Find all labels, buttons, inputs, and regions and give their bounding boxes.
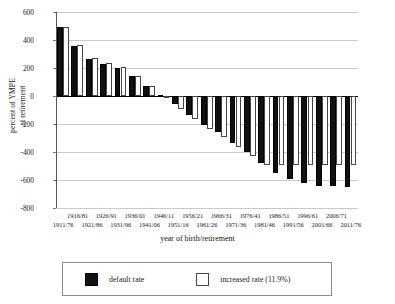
bar-group <box>128 12 142 208</box>
x-axis-tick-labels: 1911/761916/811921/861926/911931/961936/… <box>56 212 358 234</box>
bar-group <box>229 12 243 208</box>
bar-increased-rate <box>279 96 285 165</box>
bar-increased-rate <box>322 96 328 165</box>
y-tick-label: -600 <box>0 176 34 185</box>
bar-group <box>344 12 358 208</box>
bar-default-rate <box>172 96 178 104</box>
legend-label-increased-rate: increased rate (11.9%) <box>220 275 290 284</box>
legend-label-default-rate: default rate <box>109 275 144 284</box>
bar-default-rate <box>215 96 221 132</box>
y-tick-mark <box>53 68 56 69</box>
y-tick-mark <box>53 12 56 13</box>
bar-group <box>272 12 286 208</box>
y-tick-mark <box>53 208 56 209</box>
x-tick-label: 1936/01 <box>125 212 146 219</box>
bar-group <box>114 12 128 208</box>
y-tick-label: -200 <box>0 120 34 129</box>
y-tick-label: -400 <box>0 148 34 157</box>
bar-default-rate <box>345 96 351 187</box>
bar-default-rate <box>316 96 322 186</box>
bar-default-rate <box>201 96 207 125</box>
x-tick-label: 1996/61 <box>297 212 318 219</box>
chart-legend: default rate increased rate (11.9%) <box>62 262 332 296</box>
x-tick-label: 2001/66 <box>312 221 333 228</box>
bar-default-rate <box>244 96 250 152</box>
bar-default-rate <box>143 86 149 96</box>
bar-increased-rate <box>149 86 155 97</box>
y-tick-label: 400 <box>0 36 34 45</box>
bar-default-rate <box>129 76 135 96</box>
y-tick-mark <box>53 124 56 125</box>
bar-default-rate <box>287 96 293 179</box>
y-tick-label: -800 <box>0 204 34 213</box>
x-tick-label: 1926/91 <box>96 212 117 219</box>
legend-item-increased-rate: increased rate (11.9%) <box>196 273 290 286</box>
bar-default-rate <box>71 46 77 96</box>
bar-increased-rate <box>92 58 98 96</box>
bar-default-rate <box>230 96 236 143</box>
bar-group <box>200 12 214 208</box>
plot-canvas: 6004002000-200-400-600-800 <box>56 12 358 208</box>
bar-group <box>243 12 257 208</box>
x-tick-label: 2006/71 <box>326 212 347 219</box>
bar-group <box>286 12 300 208</box>
bar-group <box>315 12 329 208</box>
x-tick-label: 1931/96 <box>110 221 131 228</box>
bar-increased-rate <box>250 96 256 156</box>
legend-swatch-increased-rate <box>196 273 209 286</box>
bar-group <box>185 12 199 208</box>
bar-increased-rate <box>264 96 270 165</box>
bar-increased-rate <box>236 96 242 147</box>
bar-increased-rate <box>77 45 83 96</box>
x-tick-label: 1941/06 <box>139 221 160 228</box>
legend-item-default-rate: default rate <box>85 273 144 286</box>
bar-group <box>142 12 156 208</box>
bar-increased-rate <box>293 96 299 165</box>
chart-figure: percent of YMPE at retirement 6004002000… <box>0 0 395 304</box>
x-tick-label: 1951/16 <box>168 221 189 228</box>
legend-swatch-default-rate <box>85 273 98 286</box>
x-tick-label: 1971/36 <box>225 221 246 228</box>
bar-group <box>214 12 228 208</box>
bar-group <box>56 12 70 208</box>
bar-increased-rate <box>192 96 198 119</box>
bar-increased-rate <box>221 96 227 137</box>
x-tick-label: 1991/56 <box>283 221 304 228</box>
gridline <box>56 208 358 209</box>
bar-group <box>157 12 171 208</box>
bar-group <box>171 12 185 208</box>
x-tick-label: 1986/51 <box>268 212 289 219</box>
bar-increased-rate <box>336 96 342 165</box>
x-axis-label: year of birth/retirement <box>0 234 395 243</box>
bar-series-container <box>56 12 358 208</box>
x-tick-label: 1961/26 <box>197 221 218 228</box>
bar-increased-rate <box>207 96 213 129</box>
y-tick-mark <box>53 96 56 97</box>
x-tick-label: 1916/81 <box>67 212 88 219</box>
y-tick-mark <box>53 40 56 41</box>
bar-increased-rate <box>135 76 141 96</box>
bar-default-rate <box>273 96 279 173</box>
bar-default-rate <box>86 59 92 96</box>
bar-group <box>70 12 84 208</box>
bar-group <box>329 12 343 208</box>
y-tick-mark <box>53 180 56 181</box>
bar-increased-rate <box>178 96 184 109</box>
plot-area: 6004002000-200-400-600-800 <box>36 8 358 208</box>
x-tick-label: 1956/21 <box>182 212 203 219</box>
y-tick-label: 0 <box>0 92 34 101</box>
x-tick-label: 1976/41 <box>240 212 261 219</box>
x-tick-label: 2011/76 <box>340 221 361 228</box>
x-tick-label: 1966/31 <box>211 212 232 219</box>
bar-group <box>300 12 314 208</box>
bar-default-rate <box>100 64 106 96</box>
bar-increased-rate <box>308 96 314 165</box>
bar-default-rate <box>158 95 164 97</box>
bar-increased-rate <box>121 67 127 96</box>
bar-default-rate <box>186 96 192 115</box>
bar-increased-rate <box>351 96 357 165</box>
x-tick-label: 1981/46 <box>254 221 275 228</box>
bar-group <box>257 12 271 208</box>
bar-default-rate <box>330 96 336 186</box>
y-tick-mark <box>53 152 56 153</box>
